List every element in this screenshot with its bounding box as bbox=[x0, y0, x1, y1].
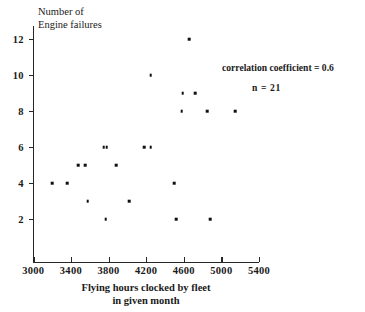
x-tick-label: 4600 bbox=[173, 265, 195, 276]
y-tick-mark bbox=[29, 111, 34, 112]
x-tick-mark bbox=[71, 257, 72, 263]
data-point bbox=[104, 218, 107, 221]
data-point bbox=[128, 200, 131, 203]
x-tick-mark bbox=[33, 257, 34, 263]
y-axis-title: Number of Engine failures bbox=[38, 6, 102, 31]
y-tick-mark bbox=[29, 219, 34, 220]
x-axis-title: Flying hours clocked by fleet in given m… bbox=[33, 281, 259, 307]
x-tick-mark bbox=[221, 257, 222, 263]
x-axis-title-line-1: Flying hours clocked by fleet bbox=[33, 281, 259, 294]
data-point bbox=[173, 182, 176, 185]
data-point bbox=[150, 74, 153, 77]
y-tick-label: 2 bbox=[18, 214, 24, 225]
x-tick-label: 4200 bbox=[135, 265, 157, 276]
annotation-correlation-coefficient: correlation coefficient = 0.6 bbox=[222, 62, 334, 73]
data-point bbox=[175, 218, 178, 221]
x-tick-label: 3800 bbox=[97, 265, 119, 276]
x-tick-mark bbox=[109, 257, 110, 263]
data-point bbox=[87, 200, 90, 203]
x-tick-mark bbox=[259, 257, 260, 263]
annotation-sample-size: n = 21 bbox=[252, 82, 281, 93]
x-tick-label: 5000 bbox=[210, 265, 232, 276]
data-point bbox=[143, 146, 146, 149]
y-axis-title-line-2: Engine failures bbox=[38, 19, 102, 32]
y-tick-label: 6 bbox=[18, 142, 24, 153]
y-tick-label: 10 bbox=[13, 70, 24, 81]
data-point bbox=[51, 182, 54, 185]
data-point bbox=[188, 38, 191, 41]
data-point bbox=[105, 146, 108, 149]
data-point bbox=[209, 218, 212, 221]
data-point bbox=[181, 110, 184, 113]
data-point bbox=[115, 164, 118, 167]
x-axis-title-line-2: in given month bbox=[33, 294, 259, 307]
data-point bbox=[206, 110, 209, 113]
data-point bbox=[234, 110, 237, 113]
y-tick-label: 8 bbox=[18, 106, 24, 117]
data-point bbox=[77, 164, 80, 167]
y-tick-mark bbox=[29, 183, 34, 184]
y-tick-mark bbox=[29, 39, 34, 40]
y-axis-title-line-1: Number of bbox=[38, 6, 102, 19]
data-point bbox=[66, 182, 69, 185]
scatter-plot-figure: 24681012 3000340038004200460050005400 Nu… bbox=[0, 0, 365, 312]
y-axis-line bbox=[33, 26, 34, 263]
x-tick-mark bbox=[184, 257, 185, 263]
x-tick-label: 3000 bbox=[22, 265, 44, 276]
data-point bbox=[84, 164, 87, 167]
data-point bbox=[182, 92, 185, 95]
y-tick-label: 12 bbox=[13, 34, 24, 45]
x-tick-label: 5400 bbox=[248, 265, 270, 276]
y-tick-mark bbox=[29, 75, 34, 76]
y-tick-mark bbox=[29, 147, 34, 148]
plot-area: 24681012 3000340038004200460050005400 bbox=[0, 0, 365, 312]
y-tick-label: 4 bbox=[18, 178, 24, 189]
x-tick-mark bbox=[146, 257, 147, 263]
data-point bbox=[194, 92, 197, 95]
data-point bbox=[150, 146, 153, 149]
x-tick-label: 3400 bbox=[60, 265, 82, 276]
